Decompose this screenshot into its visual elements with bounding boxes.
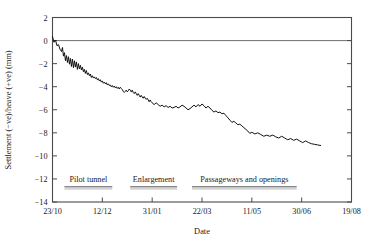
x-tick-label: 11/05 [243,207,261,216]
y-tick-label: −6 [39,106,48,115]
y-axis-title: Settlement (−ve)/heave (+ve) (mm) [4,50,13,169]
y-axis-tick-labels: 20−2−4−6−8−10−12−14 [35,14,48,208]
x-tick-label: 12/12 [93,207,112,216]
x-axis-title: Date [194,227,210,236]
y-tick-label: −4 [39,83,48,92]
x-tick-label: 19/08 [342,207,361,216]
y-tick-label: −12 [35,175,48,184]
y-tick-label: 2 [43,14,47,23]
phase-annotations: Pilot tunnelEnlargementPassageways and o… [64,175,296,189]
x-axis-tick-labels: 23/1012/1231/0122/0311/0530/0619/08 [43,207,361,216]
y-tick-label: −8 [39,129,48,138]
x-tick-label: 30/06 [292,207,311,216]
y-tick-label: −14 [35,198,48,207]
y-tick-label: −2 [39,60,48,69]
settlement-data-line [53,37,321,146]
y-tick-label: −10 [35,152,48,161]
y-tick-label: 0 [43,37,47,46]
x-tick-label: 22/03 [193,207,212,216]
settlement-line-chart: 20−2−4−6−8−10−12−14 23/1012/1231/0122/03… [0,0,368,242]
annotation-label-enlargement: Enlargement [133,175,175,184]
annotation-label-pilot-tunnel: Pilot tunnel [69,175,108,184]
settlement-series [53,37,321,146]
svg-text:Settlement (−ve)/heave (+ve) (: Settlement (−ve)/heave (+ve) (mm) [4,50,13,169]
x-tick-label: 23/10 [43,207,62,216]
chart-figure: 20−2−4−6−8−10−12−14 23/1012/1231/0122/03… [0,0,368,242]
annotation-label-passageways-and-openings: Passageways and openings [200,175,288,184]
x-axis-ticks [53,198,352,203]
x-tick-label: 31/01 [143,207,162,216]
svg-text:Date: Date [194,227,210,236]
